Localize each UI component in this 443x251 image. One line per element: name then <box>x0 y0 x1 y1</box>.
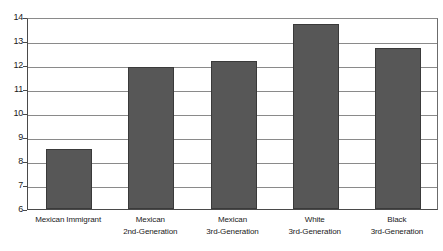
bar-chart: 67891011121314 Mexican ImmigrantMexican2… <box>0 0 443 251</box>
x-tick-label-line2: 3rd-Generation <box>356 226 438 238</box>
x-tick-label-line2: 3rd-Generation <box>274 226 356 238</box>
bar <box>211 61 257 209</box>
bar <box>128 67 174 209</box>
x-tick-label: Mexican Immigrant <box>27 214 109 226</box>
gridline <box>28 43 437 44</box>
y-tick-mark <box>23 210 27 211</box>
x-tick-label-line1: Mexican <box>136 215 165 224</box>
y-tick-mark <box>23 18 27 19</box>
x-tick-label: Mexican2nd-Generation <box>109 214 191 237</box>
x-tick-label: Mexican3rd-Generation <box>191 214 273 237</box>
y-tick-mark <box>23 90 27 91</box>
x-tick-label-line1: Mexican <box>218 215 247 224</box>
x-tick-label-line1: Mexican Immigrant <box>35 215 101 224</box>
y-tick-label: 13 <box>5 37 23 46</box>
y-tick-label: 14 <box>5 13 23 22</box>
x-tick-label-line1: White <box>305 215 325 224</box>
x-tick-label: White3rd-Generation <box>274 214 356 237</box>
plot-area <box>27 18 438 210</box>
y-tick-mark <box>23 114 27 115</box>
y-tick-label: 11 <box>5 85 23 94</box>
x-tick-label-line1: Black <box>387 215 406 224</box>
bar <box>375 48 421 209</box>
x-tick-label: Black3rd-Generation <box>356 214 438 237</box>
bar <box>293 24 339 209</box>
y-tick-label: 7 <box>5 181 23 190</box>
y-tick-label: 9 <box>5 133 23 142</box>
bar <box>46 149 92 209</box>
x-tick-label-line2: 3rd-Generation <box>191 226 273 238</box>
y-tick-mark <box>23 138 27 139</box>
y-tick-mark <box>23 186 27 187</box>
y-tick-label: 6 <box>5 205 23 214</box>
y-tick-mark <box>23 162 27 163</box>
x-tick-label-line2: 2nd-Generation <box>109 226 191 238</box>
y-tick-mark <box>23 66 27 67</box>
y-tick-label: 10 <box>5 109 23 118</box>
y-tick-mark <box>23 42 27 43</box>
y-tick-label: 12 <box>5 61 23 70</box>
y-tick-label: 8 <box>5 157 23 166</box>
